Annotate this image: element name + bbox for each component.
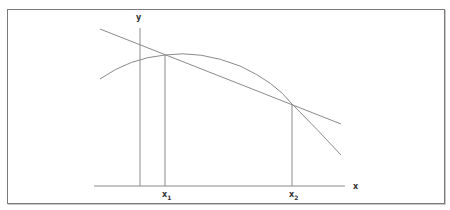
diagram-canvas: y x x1 x2 — [0, 0, 450, 210]
concave-curve — [100, 54, 341, 155]
x2-label: x2 — [289, 190, 298, 201]
secant-line — [100, 29, 341, 124]
y-axis-label: y — [136, 13, 142, 22]
x1-label: x1 — [162, 190, 171, 201]
x-axis-label: x — [353, 182, 359, 191]
